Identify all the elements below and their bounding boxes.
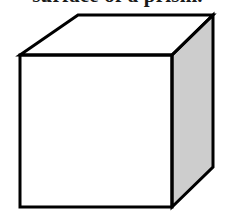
cube-figure <box>0 0 227 218</box>
cube-front-face <box>20 55 172 207</box>
figure-page: surface of a prism. <box>0 0 227 218</box>
